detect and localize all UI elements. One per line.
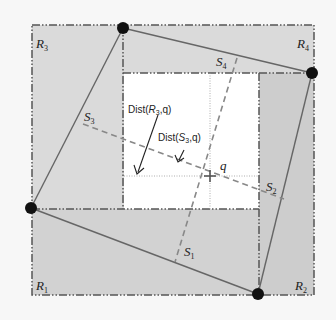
label-q: q bbox=[220, 158, 227, 173]
vertex-right bbox=[306, 67, 318, 79]
vertex-bottom bbox=[252, 288, 264, 300]
vertex-top bbox=[117, 22, 129, 34]
diagram-canvas: R3 R4 R1 R2 S3 S4 S2 S1 q Dist(R3,q) Dis… bbox=[0, 0, 336, 320]
label-dist-s3-q: Dist(S3,q) bbox=[158, 132, 201, 144]
vertex-left bbox=[25, 202, 37, 214]
label-dist-r3-q: Dist(R3,q) bbox=[128, 104, 171, 116]
